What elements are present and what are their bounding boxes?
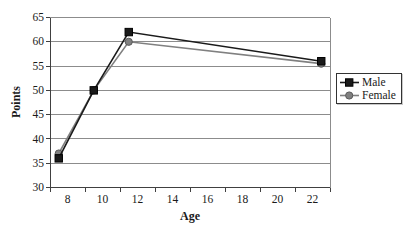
marker-square-male bbox=[90, 87, 97, 94]
male-marker-icon bbox=[340, 78, 359, 87]
x-tick-label: 22 bbox=[307, 193, 319, 205]
legend-label-male: Male bbox=[362, 76, 386, 88]
legend-label-female: Female bbox=[362, 89, 396, 101]
x-tick-label: 8 bbox=[65, 193, 71, 205]
marker-square-male bbox=[55, 155, 62, 162]
x-tick-label: 14 bbox=[167, 193, 179, 205]
y-tick-label: 50 bbox=[33, 84, 45, 96]
y-tick-label: 40 bbox=[33, 133, 45, 145]
points-vs-age-line-chart: 3035404550556065810121416182022 bbox=[0, 0, 408, 231]
y-tick-label: 35 bbox=[33, 157, 45, 169]
x-axis-title: Age bbox=[180, 209, 200, 224]
figure: 3035404550556065810121416182022 Points A… bbox=[0, 0, 408, 231]
y-tick-label: 60 bbox=[33, 35, 45, 47]
marker-circle-female bbox=[125, 38, 132, 45]
y-tick-label: 45 bbox=[33, 108, 45, 120]
y-tick-label: 30 bbox=[33, 181, 45, 193]
x-tick-label: 20 bbox=[272, 193, 284, 205]
x-tick-label: 16 bbox=[202, 193, 214, 205]
x-tick-label: 12 bbox=[132, 193, 144, 205]
x-tick-label: 10 bbox=[97, 193, 109, 205]
legend-item-male: Male bbox=[340, 76, 396, 88]
y-axis-title: Points bbox=[9, 86, 24, 118]
marker-square-male bbox=[125, 28, 132, 35]
y-tick-label: 55 bbox=[33, 60, 45, 72]
legend: Male Female bbox=[336, 73, 402, 104]
female-marker-icon bbox=[340, 91, 359, 100]
y-tick-label: 65 bbox=[33, 11, 45, 23]
x-tick-label: 18 bbox=[237, 193, 249, 205]
legend-item-female: Female bbox=[340, 89, 396, 101]
marker-square-male bbox=[318, 58, 325, 65]
series-line-female bbox=[59, 42, 322, 154]
